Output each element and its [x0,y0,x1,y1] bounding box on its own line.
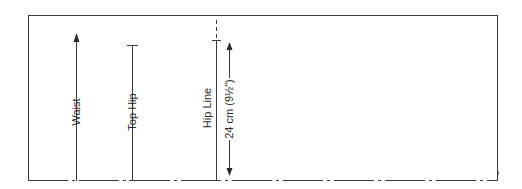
dimension-24cm: 24 cm (9½") [223,42,235,176]
waist-line: Waist [70,33,82,181]
dimension-label: 24 cm (9½") [223,79,235,139]
hip-line: Hip Line [201,20,221,181]
dimension-arrow-down-icon [227,168,233,176]
top-hip-label: Top Hip [126,93,138,130]
waist-label: Waist [70,98,82,125]
top-hip-line: Top Hip [126,45,138,181]
pattern-diagram: Waist Top Hip Hip Line 24 cm (9½") [0,0,522,189]
waist-arrow-icon [74,33,80,42]
hip-line-label: Hip Line [201,88,213,128]
dimension-arrow-up-icon [227,42,233,50]
